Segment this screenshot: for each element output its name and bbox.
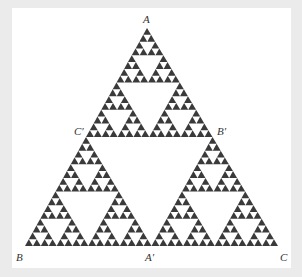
sierpinski-triangle (0, 0, 302, 277)
label-a-prime: A′ (145, 252, 154, 263)
label-a: A (143, 14, 150, 25)
label-c: C (280, 252, 287, 263)
label-b-prime: B′ (217, 126, 226, 137)
label-c-prime: C′ (74, 126, 84, 137)
label-b: B (16, 252, 23, 263)
